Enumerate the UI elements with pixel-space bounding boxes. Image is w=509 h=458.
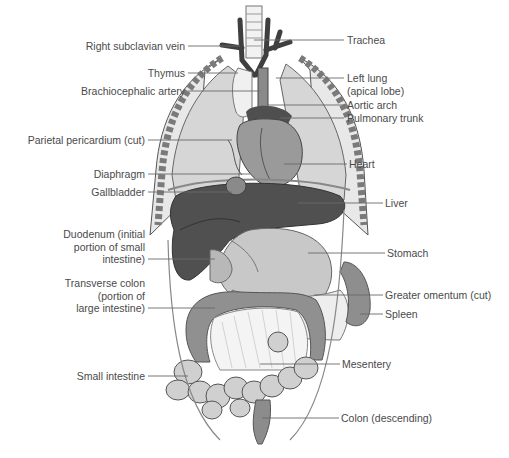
label-text: Right subclavian vein — [86, 40, 185, 53]
label-text: Liver — [385, 197, 408, 210]
label-spleen: Spleen — [385, 308, 418, 321]
label-text: Spleen — [385, 308, 418, 321]
label-text: Trachea — [347, 34, 385, 47]
label-text: Thymus — [148, 67, 185, 80]
label-stomach: Stomach — [387, 247, 428, 260]
label-text: Mesentery — [342, 358, 391, 371]
label-text: Colon (descending) — [341, 412, 432, 425]
trachea-shape — [246, 6, 262, 58]
label-parietal-pericardium: Parietal pericardium (cut) — [28, 134, 145, 147]
label-text: Left lung — [347, 72, 404, 85]
label-pulmonary-trunk: Pulmonary trunk — [347, 112, 423, 125]
label-greater-omentum: Greater omentum (cut) — [385, 289, 491, 302]
label-mesentery: Mesentery — [342, 358, 391, 371]
label-text: Stomach — [387, 247, 428, 260]
label-gallbladder: Gallbladder — [91, 186, 145, 199]
label-liver: Liver — [385, 197, 408, 210]
label-text: Pulmonary trunk — [347, 112, 423, 125]
label-left-lung: Left lung (apical lobe) — [347, 72, 404, 97]
label-text: Small intestine — [77, 370, 145, 383]
label-text: portion of small — [63, 241, 145, 254]
label-text: (portion of — [65, 290, 145, 303]
label-diaphragm: Diaphragm — [94, 168, 145, 181]
label-text: Gallbladder — [91, 186, 145, 199]
label-text: Duodenum (initial — [63, 228, 145, 241]
label-trachea: Trachea — [347, 34, 385, 47]
label-text: Brachiocephalic artery — [81, 85, 185, 98]
anatomy-diagram: Right subclavian vein Thymus Brachioceph… — [0, 0, 509, 458]
label-brachiocephalic-artery: Brachiocephalic artery — [81, 85, 185, 98]
label-right-subclavian-vein: Right subclavian vein — [86, 40, 185, 53]
label-text: Transverse colon — [65, 277, 145, 290]
label-text: Aortic arch — [347, 99, 397, 112]
label-thymus: Thymus — [148, 67, 185, 80]
descending-colon-shape — [253, 400, 270, 444]
heart-shape — [237, 119, 302, 187]
label-text: Heart — [349, 158, 375, 171]
label-text: Diaphragm — [94, 168, 145, 181]
label-aortic-arch: Aortic arch — [347, 99, 397, 112]
label-heart: Heart — [349, 158, 375, 171]
label-text: (apical lobe) — [347, 85, 404, 98]
label-small-intestine: Small intestine — [77, 370, 145, 383]
label-duodenum: Duodenum (initial portion of small intes… — [63, 228, 145, 266]
label-text: Parietal pericardium (cut) — [28, 134, 145, 147]
label-text: Greater omentum (cut) — [385, 289, 491, 302]
label-colon-descending: Colon (descending) — [341, 412, 432, 425]
aorta-shape — [258, 68, 268, 110]
label-text: large intestine) — [65, 302, 145, 315]
label-transverse-colon: Transverse colon (portion of large intes… — [65, 277, 145, 315]
label-text: intestine) — [63, 253, 145, 266]
